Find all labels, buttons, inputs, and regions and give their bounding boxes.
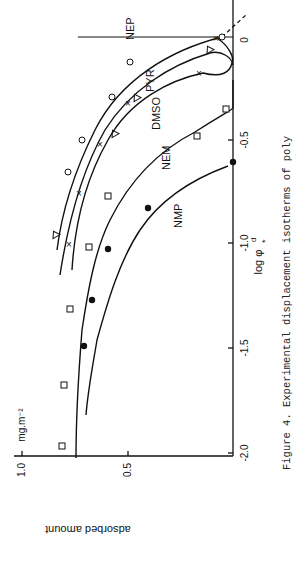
x-ticks: 0 -0.5 -1.0 -1.5 -2.0 — [228, 37, 250, 462]
y-tick-0-5: 0.5 — [122, 463, 133, 477]
series-pyr: PYR — [50, 44, 233, 275]
series-nmp: NMP — [81, 159, 236, 415]
svg-text:×: × — [125, 98, 131, 109]
x-axis-label: log φ d * — [249, 238, 270, 275]
label-pyr: PYR — [144, 69, 156, 92]
svg-text:×: × — [76, 188, 82, 199]
svg-text:×: × — [196, 68, 202, 79]
y-axis-label: adsorbed amount — [45, 524, 131, 536]
svg-text:log φ: log φ — [252, 250, 264, 275]
y-axis-unit: mg.m⁻² — [16, 408, 27, 442]
x-tick-neg0-5: -0.5 — [239, 131, 250, 149]
x-tick-0: 0 — [239, 37, 250, 43]
x-tick-neg1-5: -1.5 — [239, 339, 250, 357]
label-nep: NEP — [124, 17, 136, 40]
svg-text:×: × — [97, 139, 103, 150]
y-ticks: 1.0 0.5 mg.m⁻² — [16, 408, 133, 477]
figure-caption: Figure 4. Experimental displacement isot… — [281, 136, 293, 470]
label-nem: NEM — [160, 146, 172, 170]
label-nmp: NMP — [172, 204, 184, 228]
svg-text:×: × — [66, 239, 72, 250]
svg-text:d: d — [249, 238, 258, 242]
y-tick-1-0: 1.0 — [16, 463, 27, 477]
x-tick-neg2-0: -2.0 — [239, 444, 250, 462]
svg-text:*: * — [260, 239, 270, 243]
svg-text:×: × — [213, 33, 219, 44]
label-dmso: DMSO — [150, 97, 162, 130]
isotherm-figure: 0 -0.5 -1.0 -1.5 -2.0 1.0 0.5 mg.m⁻² ads… — [0, 0, 298, 572]
series-nem: NEM — [59, 80, 233, 458]
